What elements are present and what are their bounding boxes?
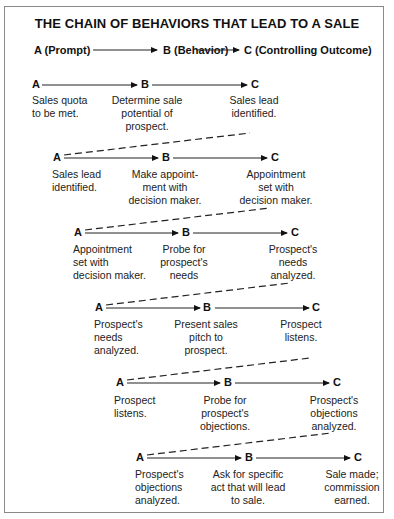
row2-prompt-text: Sales lead identified. [52, 168, 101, 194]
row3-node-a: A [74, 226, 82, 238]
row6-outcome-text: Sale made; commission earned. [324, 468, 379, 507]
row2-outcome-text: Appointment set with decision maker. [240, 168, 313, 207]
row2-node-c: C [271, 151, 279, 163]
row5-outcome-text: Prospect's objections analyzed. [310, 394, 359, 433]
row2-node-a: A [53, 151, 61, 163]
row6-node-c: C [354, 451, 362, 463]
row2-behavior-text: Make appoint- ment with decision maker. [129, 168, 202, 207]
row3-outcome-text: Prospect's needs analyzed. [269, 243, 318, 282]
row5-node-a: A [116, 376, 124, 388]
row5-behavior-text: Probe for prospect's objections. [200, 394, 250, 433]
row5-prompt-text: Prospect listens. [114, 394, 155, 420]
row1-node-a: A [32, 78, 40, 90]
row4-node-a: A [95, 301, 103, 313]
dashed-link-1-2 [64, 133, 250, 155]
row5-node-b: B [224, 376, 232, 388]
row6-prompt-text: Prospect's objections analyzed. [135, 468, 184, 507]
dashed-link-4-5 [127, 358, 310, 380]
row1-outcome-text: Sales lead identified. [229, 94, 278, 120]
row4-node-b: B [203, 301, 211, 313]
row3-behavior-text: Probe for prospect's needs [160, 243, 208, 282]
row3-prompt-text: Appointment set with decision maker. [73, 243, 146, 282]
row1-node-c: C [251, 78, 259, 90]
row6-node-b: B [245, 451, 253, 463]
row6-behavior-text: Ask for specific act that will lead to s… [211, 468, 286, 507]
row5-node-c: C [333, 376, 341, 388]
row3-node-b: B [182, 226, 190, 238]
row4-prompt-text: Prospect's needs analyzed. [94, 318, 143, 357]
row6-node-a: A [136, 451, 144, 463]
row1-prompt-text: Sales quota to be met. [32, 94, 87, 120]
row1-node-b: B [141, 78, 149, 90]
dashed-link-2-3 [85, 208, 270, 230]
row4-node-c: C [312, 301, 320, 313]
row4-behavior-text: Present sales pitch to prospect. [174, 318, 238, 357]
row1-behavior-text: Determine sale potential of prospect. [112, 94, 183, 133]
dashed-link-3-4 [106, 283, 290, 305]
row2-node-b: B [162, 151, 170, 163]
row4-outcome-text: Prospect listens. [280, 318, 321, 344]
dashed-link-5-6 [147, 433, 331, 455]
row3-node-c: C [291, 226, 299, 238]
